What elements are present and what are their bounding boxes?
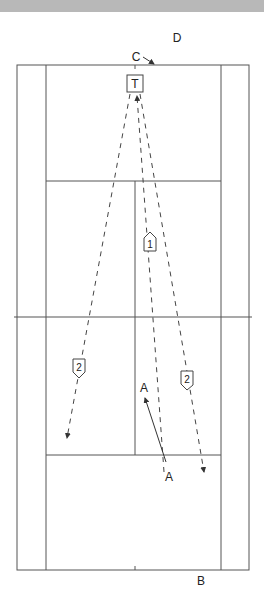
label-B: B	[197, 574, 205, 588]
svg-text:2: 2	[184, 374, 190, 385]
label-C: C	[132, 50, 141, 64]
label-A-lower: A	[165, 470, 173, 484]
svg-text:2: 2	[76, 362, 82, 373]
label-T: T	[131, 77, 139, 91]
badge-2-right: 2	[181, 371, 193, 390]
label-A-upper: A	[140, 381, 148, 395]
badge-2-left: 2	[73, 359, 85, 378]
court-lines	[14, 65, 252, 570]
tennis-court-diagram: T 1 2 2 D C A A B	[0, 0, 264, 610]
player-movement-arrow	[145, 398, 166, 462]
svg-text:1: 1	[147, 239, 153, 250]
coach-arrow	[143, 57, 154, 64]
label-D: D	[173, 31, 182, 45]
badge-1: 1	[144, 232, 156, 251]
